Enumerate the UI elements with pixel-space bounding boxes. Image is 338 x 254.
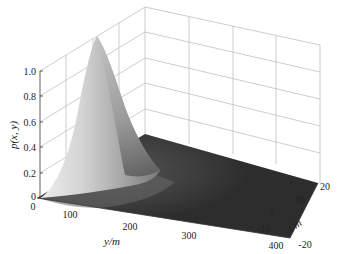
z-tick-label: 0.2 [24, 168, 37, 179]
x-tick-label: 10 [295, 194, 305, 205]
z-tick-label: 0.8 [24, 91, 37, 102]
x-tick-label: -10 [257, 223, 270, 234]
y-tick-label: 300 [182, 230, 197, 241]
z-tick-label: 0.6 [24, 117, 37, 128]
y-axis-label: y/m [103, 235, 120, 247]
x-tick-label: 0 [270, 208, 275, 219]
y-tick-label: 100 [63, 209, 78, 220]
y-tick-label: 400 [269, 240, 284, 251]
x-tick-label: -20 [298, 239, 311, 250]
y-tick-label: 0 [31, 201, 36, 212]
z-axis: 1.0 0.8 0.6 0.4 0.2 0 p(x, y) [7, 66, 43, 202]
z-tick-label: 1.0 [24, 66, 37, 77]
z-tick-label: 0.4 [24, 142, 37, 153]
y-tick-label: 200 [123, 221, 138, 232]
surface-plot: 1.0 0.8 0.6 0.4 0.2 0 p(x, y) 0 100 200 … [0, 0, 338, 254]
x-tick-label: 20 [320, 181, 330, 192]
z-axis-label: p(x, y) [7, 121, 20, 150]
